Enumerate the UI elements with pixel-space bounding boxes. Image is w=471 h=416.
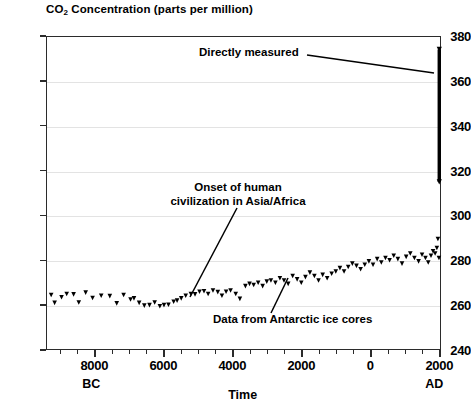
x-tick-500: [388, 350, 389, 354]
annotation-onset-civilization: Onset of human civilization in Asia/Afri…: [170, 181, 305, 208]
x-tick--7500: [112, 350, 113, 354]
annotation-ice-cores: Data from Antarctic ice cores: [213, 313, 372, 327]
gridline-320: [47, 172, 440, 173]
y-tick-label-360: 360: [437, 73, 471, 88]
chart-title-rest: Concentration (parts per million): [68, 3, 253, 15]
x-tick--500: [353, 350, 354, 354]
y-tick-mark-340: [40, 125, 46, 126]
x-tick--5500: [181, 350, 182, 354]
gridline-340: [47, 127, 440, 128]
y-tick-mark-280: [40, 260, 46, 261]
x-tick-label-0-4: 0: [367, 358, 374, 373]
x-tick--7000: [129, 350, 130, 354]
era-label-bc: BC: [82, 377, 100, 391]
y-tick-label-300: 300: [437, 208, 471, 223]
annotation-directly-measured: Directly measured: [199, 46, 299, 60]
x-tick-0: [370, 350, 371, 357]
y-tick-label-280: 280: [437, 253, 471, 268]
x-tick-label-2000-5: 2000: [425, 358, 453, 373]
gridline-260: [47, 306, 440, 307]
gridline-360: [47, 82, 440, 83]
y-tick-mark-360: [40, 80, 46, 81]
gridline-280: [47, 261, 440, 262]
y-tick-mark-320: [40, 170, 46, 171]
x-tick-label-8000-0: 8000: [80, 358, 108, 373]
y-tick-label-260: 260: [437, 298, 471, 313]
x-tick--8500: [77, 350, 78, 354]
x-tick--1000: [336, 350, 337, 354]
x-tick--3000: [267, 350, 268, 354]
x-axis-title: Time: [228, 388, 257, 402]
x-tick-1500: [422, 350, 423, 354]
y-tick-mark-380: [40, 35, 46, 36]
y-tick-mark-300: [40, 215, 46, 216]
x-tick-label-4000-2: 4000: [218, 358, 246, 373]
x-tick--4000: [232, 350, 233, 357]
x-tick--8000: [94, 350, 95, 357]
x-tick--5000: [198, 350, 199, 354]
chart-root: CO2 Concentration (parts per million) 24…: [0, 0, 471, 416]
y-tick-label-380: 380: [437, 29, 471, 44]
gridline-300: [47, 216, 440, 217]
x-tick--2500: [284, 350, 285, 354]
chart-title: CO2 Concentration (parts per million): [46, 3, 253, 15]
x-tick-label-6000-1: 6000: [149, 358, 177, 373]
x-tick--4500: [215, 350, 216, 354]
x-tick-1000: [405, 350, 406, 354]
y-tick-label-320: 320: [437, 163, 471, 178]
y-tick-mark-240: [40, 349, 46, 350]
y-tick-mark-260: [40, 304, 46, 305]
y-tick-label-340: 340: [437, 118, 471, 133]
x-tick--1500: [319, 350, 320, 354]
x-tick-label-2000-3: 2000: [287, 358, 315, 373]
era-label-ad: AD: [425, 377, 443, 391]
x-tick--6500: [146, 350, 147, 354]
x-tick--2000: [301, 350, 302, 357]
chart-title-main: CO: [46, 3, 63, 15]
x-tick--6000: [163, 350, 164, 357]
annotation-onset-line1: Onset of human: [170, 181, 305, 195]
annotation-onset-line2: civilization in Asia/Africa: [170, 195, 305, 209]
y-tick-label-240: 240: [437, 343, 471, 358]
chart-title-subscript: 2: [63, 8, 68, 17]
x-tick--9000: [60, 350, 61, 354]
x-tick--3500: [250, 350, 251, 354]
x-tick-2000: [439, 350, 440, 357]
